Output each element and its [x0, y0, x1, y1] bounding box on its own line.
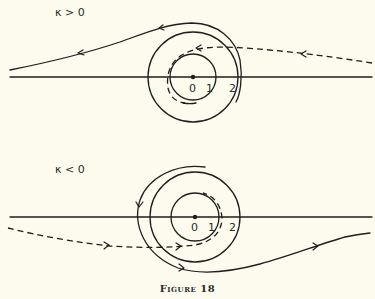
dashed-trajectory [168, 47, 372, 103]
tick-label-2: 2 [229, 221, 236, 234]
tick-label-0: 0 [191, 221, 198, 234]
figure-18: κ > 0 0 1 2 κ < 0 0 1 2 [0, 0, 375, 299]
origin-dot [191, 75, 195, 79]
panel-kappa-positive: κ > 0 0 1 2 [10, 6, 372, 122]
panel-label-kappa-positive: κ > 0 [55, 6, 85, 19]
origin-dot [193, 215, 197, 219]
panel-kappa-negative: κ < 0 0 1 2 [8, 163, 372, 272]
dashed-trajectory-end [183, 103, 196, 104]
tick-label-0: 0 [189, 82, 196, 95]
tick-label-1: 1 [206, 82, 213, 95]
panel-label-kappa-negative: κ < 0 [55, 163, 85, 176]
arrow-left-icon [301, 51, 306, 57]
figure-canvas: κ > 0 0 1 2 κ < 0 0 1 2 [0, 0, 375, 299]
dashed-trajectory [8, 193, 222, 247]
tick-label-2: 2 [229, 82, 236, 95]
tick-label-1: 1 [208, 221, 215, 234]
figure-caption: Figure 18 [0, 283, 375, 294]
